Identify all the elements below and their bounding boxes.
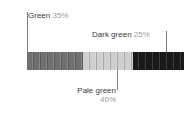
callout-label-dark-green: Dark green 25%	[92, 30, 150, 39]
bar-segment-green	[27, 52, 83, 70]
bar-segment-dark-green	[133, 52, 184, 70]
leader-line-pale-green	[117, 70, 118, 90]
callout-name-dark-green: Dark green	[92, 30, 132, 39]
leader-line-green	[27, 12, 28, 52]
callout-percent-dark-green: 25%	[134, 30, 150, 39]
callout-name-pale-green: Pale green	[77, 86, 116, 95]
stacked-bar	[27, 52, 184, 70]
callout-name-green: Green	[28, 11, 50, 20]
callout-label-pale-green: Pale green40%	[60, 86, 116, 104]
segmented-bar-figure: Green 35% Dark green 25% Pale green40%	[0, 0, 194, 122]
callout-percent-pale-green: 40%	[60, 95, 116, 104]
callout-label-green: Green 35%	[28, 11, 68, 20]
bar-segment-pale-green	[83, 52, 133, 70]
leader-line-dark-green	[166, 31, 167, 52]
callout-percent-green: 35%	[52, 11, 68, 20]
